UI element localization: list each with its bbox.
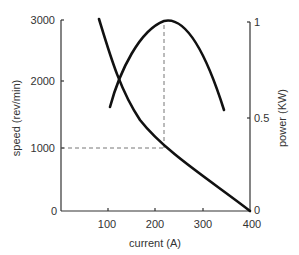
speed-curve bbox=[99, 19, 250, 211]
x-tick-labels: 100 200 300 400 bbox=[98, 218, 261, 230]
x-axis-title: current (A) bbox=[129, 237, 181, 249]
y2-tick-1: 1 bbox=[254, 16, 260, 28]
y-tick-0: 0 bbox=[51, 205, 57, 217]
y-tick-1000: 1000 bbox=[31, 142, 55, 154]
y-tick-3000: 3000 bbox=[31, 14, 55, 26]
y2-tick-labels: 1 0.5 0 bbox=[254, 16, 269, 216]
x-tick-300: 300 bbox=[194, 218, 212, 230]
y-tick-labels: 3000 2000 1000 0 bbox=[31, 14, 57, 217]
y2-tick-0.5: 0.5 bbox=[254, 112, 269, 124]
x-tick-400: 400 bbox=[243, 218, 261, 230]
y2-tick-0: 0 bbox=[254, 204, 260, 216]
speed-power-chart: 3000 2000 1000 0 100 200 300 400 1 0.5 0… bbox=[0, 0, 299, 255]
x-tick-200: 200 bbox=[146, 218, 164, 230]
x-tick-100: 100 bbox=[98, 218, 116, 230]
y2-axis-title: power (KW) bbox=[276, 89, 288, 147]
y-tick-2000: 2000 bbox=[31, 75, 55, 87]
y-axis-title: speed (rev/min) bbox=[10, 80, 22, 156]
axes bbox=[61, 20, 250, 211]
